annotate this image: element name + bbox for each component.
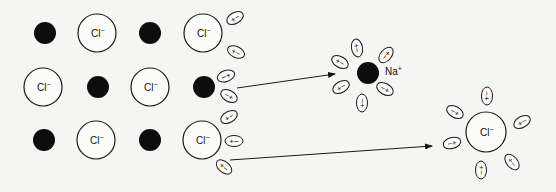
hydrated-sodium-ion: +−+−+−+−−+−+Na+ [329,38,401,112]
sodium-ion [357,62,379,84]
dissolution-arrows [230,74,432,160]
chloride-ion: Cl− [183,121,221,159]
water-molecule: −+ [476,161,487,179]
svg-text:+−: +− [358,98,367,108]
sodium-ion [33,129,55,151]
arrow [230,146,432,160]
sodium-ion [34,22,56,44]
svg-text:+−: +− [229,137,239,146]
chloride-ion: Cl− [78,14,116,52]
chloride-ion: Cl− [184,14,222,52]
sodium-label: Na+ [385,65,402,77]
arrow [237,74,335,88]
water-molecule: +− [226,43,247,61]
chloride-ion: Cl− [131,68,169,106]
sodium-ion [139,22,161,44]
water-molecule: −+ [218,87,239,106]
ionic-lattice: Cl−Cl−Cl−Cl−Cl−Cl− [24,14,222,159]
water-molecule: −+ [482,87,493,105]
svg-text:−+: −+ [477,165,486,175]
water-molecule: +− [511,113,532,132]
svg-text:+−: +− [351,43,362,54]
chloride-ion: Cl− [466,112,506,152]
sodium-ion [87,76,109,98]
water-molecule: −+ [376,45,396,66]
water-molecule: +− [224,9,245,28]
chloride-ion: Cl− [77,121,115,159]
water-molecule: +− [218,108,239,127]
water-molecule: +− [330,78,351,97]
sodium-ion [193,76,215,98]
chloride-ion: Cl− [24,68,62,106]
diagram-canvas: Cl−Cl−Cl−Cl−Cl−Cl− +−+−−+−++−+−+− +−+−+−… [0,0,556,192]
sodium-ion [139,129,161,151]
water-molecule: −+ [444,103,465,122]
water-molecule: +− [357,94,368,112]
water-molecule: +− [329,53,350,72]
water-molecule: +− [502,152,522,173]
hydrated-chloride-ion: −+−+−+−++−+−Cl− [442,87,533,179]
water-molecule: −+ [442,135,462,150]
svg-text:−+: −+ [482,91,491,101]
water-molecule: +− [225,136,243,147]
water-molecule: −+ [216,68,237,84]
water-molecule: +− [350,38,364,58]
nacl-dissolution-diagram: Cl−Cl−Cl−Cl−Cl−Cl− +−+−−+−++−+−+− +−+−+−… [0,0,556,192]
water-molecule: −+ [374,80,395,99]
